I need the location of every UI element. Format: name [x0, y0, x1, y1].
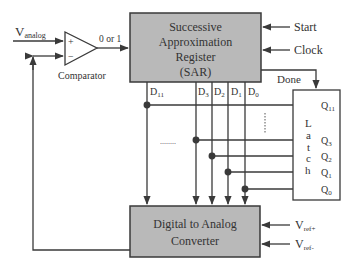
clock-label: Clock [294, 43, 323, 57]
dac-block: Digital to Analog Converter [130, 206, 260, 257]
analog-input: Vanalog [13, 24, 63, 41]
svg-text:Register: Register [176, 50, 216, 64]
v-analog-label: Vanalog [15, 24, 46, 40]
latch-taps [144, 102, 293, 192]
sar-adc-diagram: Vanalog + − Comparator 0 or 1 Successive… [0, 0, 355, 270]
svg-text:Successive: Successive [169, 20, 222, 34]
comparator-plus: + [68, 36, 74, 47]
done-label: Done [277, 73, 301, 85]
d2-label: D2 [214, 86, 225, 99]
start-label: Start [294, 20, 317, 34]
feedback-line [33, 58, 130, 250]
svg-text:c: c [306, 152, 311, 164]
vref-plus-label: Vref+ [295, 218, 315, 233]
d11-label: D11 [150, 86, 164, 99]
d3-label: D3 [198, 86, 209, 99]
d1-label: D1 [231, 86, 242, 99]
latch-block: L a t c h Q11 Q3 Q2 Q1 Q0 [293, 90, 340, 200]
comparator: + − Comparator 0 or 1 [58, 32, 128, 81]
svg-text:a: a [306, 129, 311, 141]
svg-text:L: L [305, 117, 312, 129]
d0-label: D0 [248, 86, 259, 99]
comparator-output-label: 0 or 1 [99, 34, 121, 44]
svg-text:Approximation: Approximation [159, 35, 232, 49]
svg-text:h: h [305, 164, 311, 176]
ellipsis-horizontal: ........ [160, 137, 176, 146]
svg-text:Converter: Converter [171, 234, 219, 248]
comparator-minus: − [68, 51, 74, 62]
vref-minus-label: Vref- [295, 237, 314, 252]
svg-text:Digital to Analog: Digital to Analog [153, 217, 236, 231]
sar-block: Successive Approximation Register (SAR) [130, 13, 261, 82]
comparator-label: Comparator [58, 70, 106, 81]
svg-text:(SAR): (SAR) [180, 65, 211, 79]
